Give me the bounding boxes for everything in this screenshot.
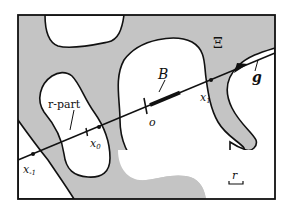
- label-g: g: [252, 69, 262, 85]
- label-r-part: r-part: [48, 98, 81, 111]
- label-scale-r: r: [232, 169, 238, 182]
- label-origin: o: [149, 116, 156, 129]
- point-x-minus1: [31, 152, 35, 156]
- point-x1: [209, 78, 213, 82]
- label-xi: Ξ: [213, 35, 223, 51]
- label-b: B: [157, 66, 168, 82]
- point-x0: [97, 125, 101, 129]
- diagram-canvas: Ξ r-part B o x1 x0 x-1 g r: [0, 0, 291, 223]
